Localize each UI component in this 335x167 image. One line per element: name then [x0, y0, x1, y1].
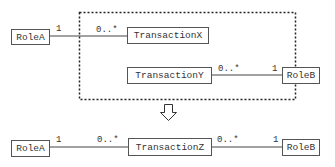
class-box-rolea-before: RoleA	[11, 29, 50, 45]
multiplicity-rolea-before: 1	[56, 25, 61, 34]
class-box-roleb-before: RoleB	[282, 67, 320, 84]
down-arrow-icon	[161, 105, 177, 121]
multiplicity-transactionz-left: 0..*	[97, 136, 119, 145]
class-box-transactionx: TransactionX	[127, 27, 209, 44]
multiplicity-transactionz-right: 0..*	[217, 136, 239, 145]
class-box-rolea-after: RoleA	[11, 140, 50, 157]
multiplicity-rolea-after: 1	[56, 136, 61, 145]
class-box-roleb-after: RoleB	[282, 139, 320, 156]
multiplicity-roleb-after: 1	[273, 136, 278, 145]
multiplicity-transactiony: 0..*	[218, 65, 240, 74]
class-box-transactionz: TransactionZ	[128, 138, 212, 156]
class-box-transactiony: TransactionY	[127, 67, 212, 84]
multiplicity-transactionx: 0..*	[96, 26, 118, 35]
multiplicity-roleb-before: 1	[272, 65, 277, 74]
